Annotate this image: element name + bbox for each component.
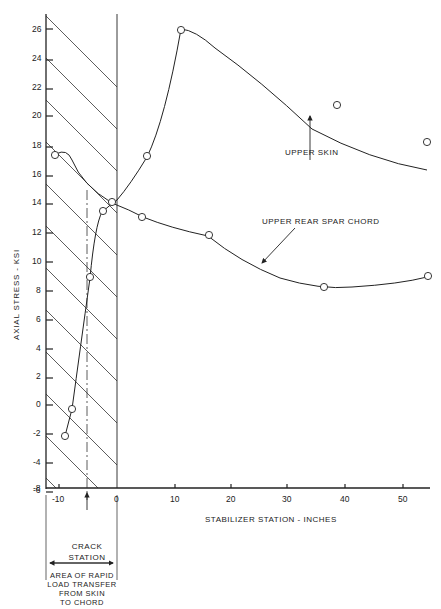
hatch-region (0, 0, 170, 602)
spar-chord-label: UPPER REAR SPAR CHORD (262, 217, 379, 226)
area-label: AREA OF RAPID LOAD TRANSFER FROM SKIN TO… (38, 571, 126, 607)
x-axis-label: STABILIZER STATION - INCHES (205, 515, 337, 524)
upper-skin-label: UPPER SKIN (285, 148, 338, 157)
data-markers (51, 26, 431, 439)
y-axis-label: AXIAL STRESS - KSI (12, 249, 21, 340)
spar-chord-arrow (262, 228, 295, 263)
crack-station-label: CRACK STATION (62, 542, 112, 563)
upper-skin-line (65, 29, 427, 436)
